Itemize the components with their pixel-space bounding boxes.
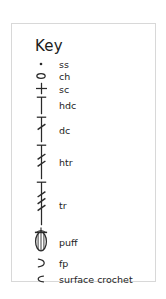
legend-item-label: tr [59, 201, 67, 211]
stitch-symbol-ss-icon [27, 58, 55, 70]
page-title: Key [35, 39, 63, 54]
stitch-symbol-ch-icon [27, 70, 55, 82]
legend-item-label: ch [59, 72, 70, 82]
stitch-symbol-sc-icon [27, 82, 55, 95]
legend-item-label: fp [59, 259, 68, 269]
legend-item-label: hdc [59, 101, 76, 111]
stitch-symbol-fp-icon [27, 256, 55, 270]
stitch-symbol-tr-icon [27, 181, 55, 226]
stitch-symbol-hdc-icon [27, 96, 55, 115]
stitch-symbol-dc-icon [27, 116, 55, 143]
legend-item-label: puff [59, 238, 78, 248]
legend-item-label: dc [59, 126, 70, 136]
stitch-symbol-puff-icon [27, 227, 55, 253]
legend-item-label: surface crochet [59, 275, 133, 285]
legend-item-label: htr [59, 158, 73, 168]
stitch-symbol-surface-crochet-icon [27, 272, 55, 286]
stitch-symbol-htr-icon [27, 144, 55, 180]
key-panel: Key ss ch [11, 23, 156, 282]
legend-item-label: ss [59, 60, 69, 70]
legend-item-label: sc [59, 85, 69, 95]
